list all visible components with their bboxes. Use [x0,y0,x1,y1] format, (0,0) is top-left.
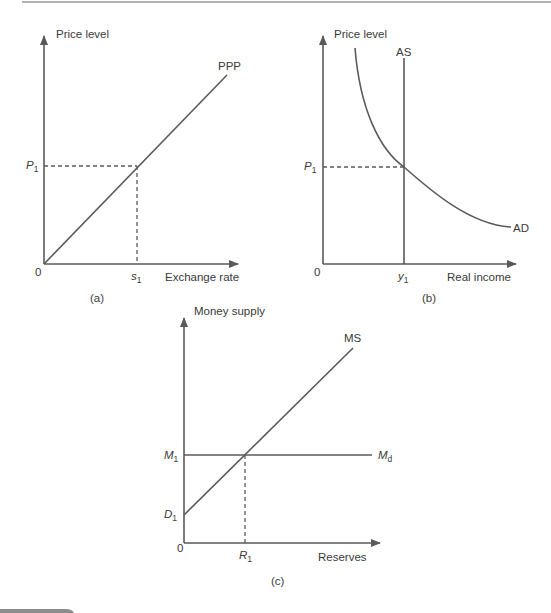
panel-b-origin-label: 0 [314,266,320,278]
panel-b-caption: (b) [422,292,436,304]
panel-c-x-label: Reserves [318,551,367,563]
panel-b: Price level AS AD 0 Real income (b) P1 y… [304,28,529,304]
panel-c-d1-marker: D1 [164,508,177,523]
panel-c-origin-label: 0 [177,542,183,554]
ms-label: MS [344,332,362,344]
panel-a: Price level PPP 0 Exchange rate (a) P1 s… [26,28,241,304]
figure-canvas: Price level PPP 0 Exchange rate (a) P1 s… [0,0,551,613]
panel-b-x-label: Real income [447,271,511,283]
panel-a-y-label: Price level [56,28,109,40]
ad-curve [355,48,511,227]
panel-a-s1-marker: s1 [131,270,142,285]
md-label: Md [378,449,393,464]
panel-c-y-label: Money supply [194,305,265,317]
panel-c: Money supply MS 0 Reserves (c) Md M1 D1 … [164,305,393,587]
panel-a-caption: (a) [90,292,104,304]
panel-b-y1-marker: y1 [397,270,409,285]
panel-c-m1-marker: M1 [164,449,179,464]
ad-label: AD [513,222,529,234]
panel-a-p1-marker: P1 [26,159,39,174]
ms-line [184,348,353,515]
bottom-band [0,609,74,613]
as-label: AS [396,46,412,58]
panel-b-y-label: Price level [334,28,387,40]
panel-a-x-label: Exchange rate [165,271,239,283]
ppp-label: PPP [218,60,241,72]
panel-c-r1-marker: R1 [239,549,252,564]
panel-c-caption: (c) [271,575,285,587]
panel-a-origin-label: 0 [35,266,41,278]
ppp-line [44,75,227,264]
panel-b-p1-marker: P1 [304,160,317,175]
